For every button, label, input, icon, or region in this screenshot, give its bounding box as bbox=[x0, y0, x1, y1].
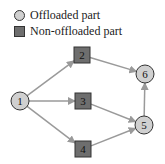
edge-1-2 bbox=[27, 61, 74, 96]
node-6: 6 bbox=[136, 65, 154, 83]
node-1: 1 bbox=[11, 92, 29, 110]
edge-3-5 bbox=[91, 104, 136, 122]
node-2: 2 bbox=[74, 47, 90, 63]
svg-text:4: 4 bbox=[80, 143, 86, 155]
node-3: 3 bbox=[75, 93, 91, 109]
svg-text:6: 6 bbox=[142, 68, 148, 80]
svg-text:1: 1 bbox=[17, 95, 23, 107]
task-graph-diagram: Offloaded part Non-offloaded part 123456 bbox=[0, 0, 165, 164]
edge-4-5 bbox=[91, 128, 136, 146]
graph-canvas: 123456 bbox=[0, 0, 165, 164]
edge-5-6 bbox=[144, 83, 145, 116]
svg-text:2: 2 bbox=[79, 49, 85, 61]
edge-1-4 bbox=[27, 106, 75, 142]
edge-2-6 bbox=[90, 57, 136, 71]
svg-text:5: 5 bbox=[141, 119, 147, 131]
svg-text:3: 3 bbox=[80, 95, 86, 107]
node-4: 4 bbox=[75, 141, 91, 157]
node-5: 5 bbox=[135, 116, 153, 134]
